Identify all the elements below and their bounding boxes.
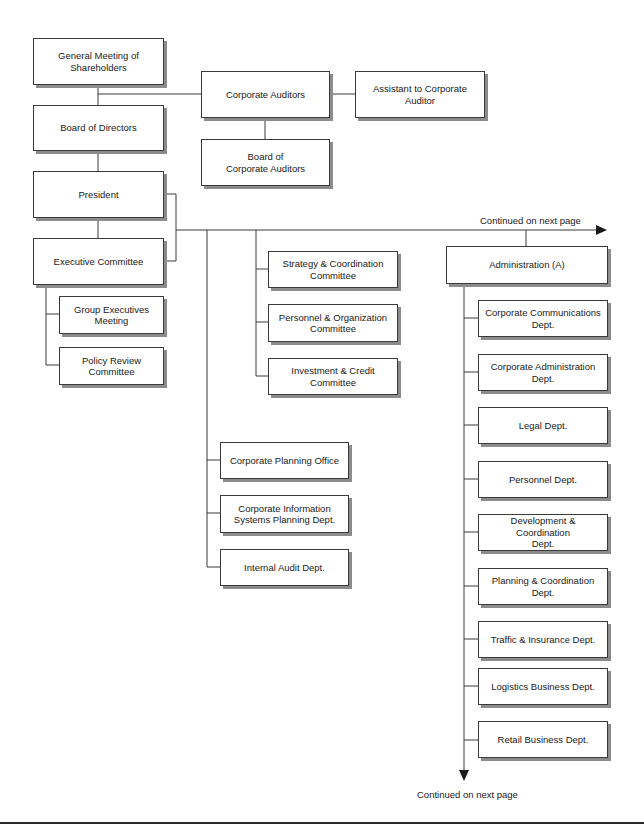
node-corporate-info-systems: Corporate Information Systems Planning D…: [220, 495, 349, 533]
node-administration: Administration (A): [446, 246, 608, 284]
node-investment-committee: Investment & Credit Committee: [268, 358, 398, 395]
node-strategy-committee: Strategy & Coordination Committee: [268, 251, 398, 288]
node-policy-review: Policy Review Committee: [59, 347, 164, 385]
node-board-directors: Board of Directors: [33, 105, 164, 151]
arrow-right-icon: [596, 225, 607, 235]
node-admin-dept: Legal Dept.: [478, 407, 608, 444]
node-corporate-planning: Corporate Planning Office: [220, 442, 349, 479]
node-executive-committee: Executive Committee: [33, 238, 164, 285]
node-admin-dept: Retail Business Dept.: [478, 721, 608, 758]
node-corporate-auditors: Corporate Auditors: [201, 71, 330, 118]
node-general-meeting: General Meeting of Shareholders: [33, 38, 164, 85]
org-chart: General Meeting of Shareholders Corporat…: [0, 0, 644, 833]
continued-bottom-note: Continued on next page: [417, 789, 518, 800]
node-admin-dept: Traffic & Insurance Dept.: [478, 621, 608, 658]
node-board-corporate-auditors: Board of Corporate Auditors: [201, 139, 330, 186]
node-president: President: [33, 171, 164, 218]
node-admin-dept: Development & Coordination Dept.: [478, 514, 608, 551]
node-personnel-committee: Personnel & Organization Committee: [268, 304, 398, 342]
node-internal-audit: Internal Audit Dept.: [220, 549, 349, 586]
node-admin-dept: Personnel Dept.: [478, 461, 608, 498]
node-admin-dept: Corporate Administration Dept.: [478, 354, 608, 391]
node-admin-dept: Logistics Business Dept.: [478, 668, 608, 705]
node-admin-dept: Corporate Communications Dept.: [478, 300, 608, 337]
node-group-executives: Group Executives Meeting: [59, 296, 164, 334]
continued-right-note: Continued on next page: [480, 215, 581, 226]
page-bottom-rule: [0, 822, 644, 824]
arrow-down-icon: [459, 770, 469, 781]
node-admin-dept: Planning & Coordination Dept.: [478, 568, 608, 605]
node-assistant-auditor: Assistant to Corporate Auditor: [355, 71, 485, 118]
